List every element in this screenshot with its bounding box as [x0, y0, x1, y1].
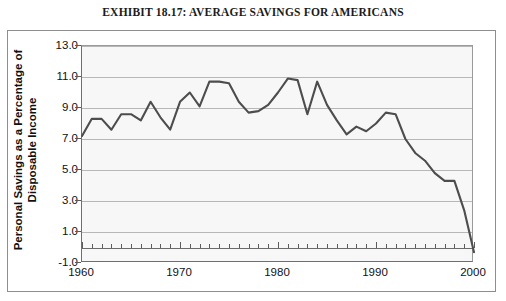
- x-axis-tick-label: 2000: [443, 266, 503, 278]
- y-axis-tick-label: 7.0: [38, 133, 78, 144]
- x-axis-tick-label: 1960: [51, 266, 111, 278]
- data-series-line: [82, 46, 474, 263]
- x-axis-tick-label: 1990: [345, 266, 405, 278]
- plot-area: [81, 45, 473, 262]
- y-axis-tick-label: 5.0: [38, 164, 78, 175]
- x-axis-tick-label: 1980: [247, 266, 307, 278]
- y-axis-title: Personal Savings as a Percentage of Disp…: [8, 38, 42, 262]
- y-axis-tick-label: 13.0: [38, 40, 78, 51]
- y-axis-tick-mark: [75, 262, 81, 263]
- y-axis-tick-label: 11.0: [38, 71, 78, 82]
- y-axis-tick-label: 3.0: [38, 195, 78, 206]
- y-axis-tick-labels: 13.011.09.07.05.03.01.0-1.0: [38, 45, 78, 262]
- y-axis-title-line2: Disposable Income: [25, 50, 39, 251]
- y-axis-tick-label: 9.0: [38, 102, 78, 113]
- y-axis-title-line1: Personal Savings as a Percentage of: [12, 50, 26, 251]
- page-title: EXHIBIT 18.17: AVERAGE SAVINGS FOR AMERI…: [0, 6, 506, 18]
- x-axis-tick-labels: 19601970198019902000: [0, 266, 506, 286]
- x-axis-major-tick: [474, 242, 475, 248]
- x-axis-tick-label: 1970: [149, 266, 209, 278]
- y-axis-tick-label: 1.0: [38, 226, 78, 237]
